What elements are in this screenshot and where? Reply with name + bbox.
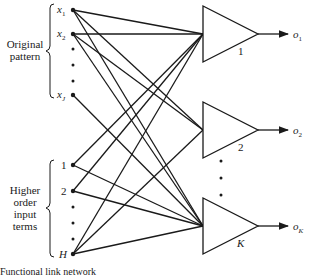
- input-label-H: H: [59, 248, 67, 260]
- output-arrows: [258, 34, 288, 226]
- unit-label-2: 2: [238, 141, 244, 153]
- unit-label-1: 1: [238, 45, 244, 57]
- output-label-o1: o1: [293, 28, 302, 45]
- unit-label-K: K: [237, 237, 244, 249]
- connection-lines: [73, 10, 203, 254]
- group-braces: [46, 4, 54, 257]
- output-units: [203, 6, 258, 254]
- unit-dots: [220, 160, 223, 197]
- original-pattern-label: Original pattern: [4, 38, 46, 62]
- input-nodes: [71, 8, 75, 256]
- output-label-o2: o2: [293, 124, 302, 141]
- label-line: terms: [4, 220, 46, 232]
- label-line: Higher: [4, 184, 46, 196]
- label-line: Original: [4, 38, 46, 50]
- input-label-2: 2: [61, 185, 67, 197]
- output-label-oK: oK: [293, 220, 303, 237]
- input-label-1: 1: [61, 159, 67, 171]
- input-label-xJ: xJ: [57, 88, 65, 105]
- label-line: input: [4, 208, 46, 220]
- higher-order-terms-label: Higher order input terms: [4, 184, 46, 232]
- label-line: order: [4, 196, 46, 208]
- label-line: pattern: [4, 50, 46, 62]
- input-label-x2: x2: [57, 27, 65, 44]
- figure-caption: Functional link network: [0, 266, 96, 277]
- input-label-x1: x1: [57, 3, 65, 20]
